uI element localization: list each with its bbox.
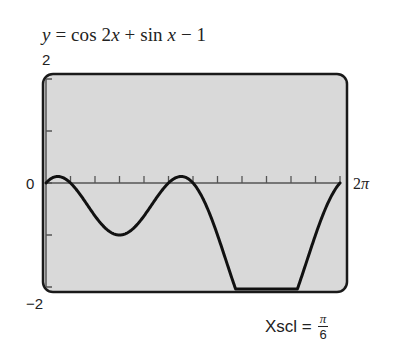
graph-screen bbox=[0, 0, 395, 358]
xscl-denominator: 6 bbox=[319, 327, 326, 342]
xscl-annotation: Xscl = π 6 bbox=[265, 312, 328, 341]
xscl-fraction: π 6 bbox=[318, 312, 329, 341]
xscl-numerator: π bbox=[318, 312, 329, 327]
xscl-label: Xscl = bbox=[265, 317, 312, 337]
